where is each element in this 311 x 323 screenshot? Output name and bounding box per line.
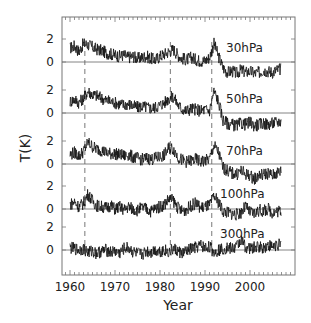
y-tick-label: 2 (46, 134, 54, 148)
event-dashed-lines (85, 42, 212, 245)
y-tick-label: 0 (46, 202, 54, 216)
y-tick-label: 0 (46, 157, 54, 171)
series-label: 30hPa (226, 41, 263, 55)
y-tick-label: 2 (46, 32, 54, 46)
x-tick-label: 1960 (55, 280, 86, 294)
x-tick-label: 1970 (100, 280, 131, 294)
x-tick-label: 1980 (145, 280, 176, 294)
series-label: 300hPa (220, 227, 265, 241)
series-label: 50hPa (226, 92, 263, 106)
y-tick-label: 0 (46, 55, 54, 69)
x-tick-label: 2000 (235, 280, 266, 294)
y-tick-label: 0 (46, 243, 54, 257)
x-axis-label: Year (162, 297, 193, 313)
series-label: 70hPa (226, 144, 263, 158)
x-axis-tick-labels: 19601970198019902000 (55, 280, 266, 294)
series-label: 100hPa (220, 187, 265, 201)
y-axis-label: T(K) (17, 134, 33, 164)
y-tick-label: 2 (46, 179, 54, 193)
y-tick-label: 0 (46, 106, 54, 120)
y-tick-label: 2 (46, 220, 54, 234)
temperature-anomaly-chart: 19601970198019902000 0230hPa0250hPa0270h… (0, 0, 311, 323)
x-tick-label: 1990 (190, 280, 221, 294)
y-tick-label: 2 (46, 83, 54, 97)
